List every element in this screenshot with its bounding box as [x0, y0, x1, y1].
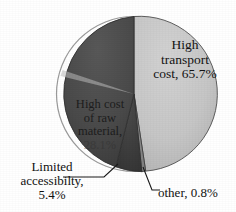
pie-label-limited-accessibility: Limited accessibilty, 5.4% — [2, 160, 102, 202]
pie-label-raw-material-text: High cost of raw material, — [76, 97, 124, 138]
pie-label-high-cost-raw-material: High cost of raw material,28.1% — [58, 98, 142, 152]
pie-label-other: other, 0.8% — [158, 186, 234, 200]
pie-chart-figure: High transport cost, 65.7% High cost of … — [0, 0, 236, 212]
pie-label-high-transport-cost: High transport cost, 65.7% — [139, 38, 231, 82]
pie-label-raw-material-percent: 28.1% — [58, 139, 142, 153]
